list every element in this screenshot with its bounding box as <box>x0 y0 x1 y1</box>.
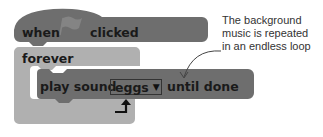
sound-dropdown-value: eggs <box>115 80 149 95</box>
hat-when-label: when <box>22 25 60 40</box>
forever-label: forever <box>22 51 73 66</box>
annotation-line: music is repeated <box>222 27 311 40</box>
hat-clicked-label: clicked <box>90 25 139 40</box>
sound-dropdown[interactable]: eggs ▼ <box>110 79 162 95</box>
play-sound-label: play sound <box>40 79 117 94</box>
annotation-line: The background <box>222 14 311 27</box>
annotation-line: in an endless loop <box>222 40 311 53</box>
until-done-label: until done <box>167 79 239 94</box>
annotation-text: The background music is repeated in an e… <box>222 14 311 53</box>
dropdown-arrow-icon: ▼ <box>153 82 160 92</box>
